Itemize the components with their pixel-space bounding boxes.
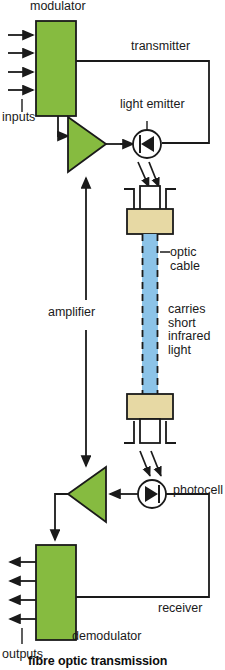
- modulator-block: [36, 21, 76, 116]
- light-emitter-label: light emitter: [120, 98, 185, 112]
- amplifier-label: amplifier: [48, 306, 95, 320]
- optic-cable: [142, 234, 158, 394]
- demodulator-label: demodulator: [72, 630, 142, 644]
- cable-note-label: carries short infrared light: [168, 303, 225, 357]
- photocell-label: photocell: [173, 484, 223, 498]
- modulator-label: modulator: [30, 0, 86, 14]
- demodulator-block: [36, 545, 76, 640]
- photocell-symbol: [138, 480, 166, 508]
- inputs-label: inputs: [2, 111, 35, 125]
- receiver-label: receiver: [158, 602, 202, 616]
- optic-cable-label: optic cable: [170, 246, 224, 273]
- transmitter-label: transmitter: [131, 40, 190, 54]
- figure-caption: fibre optic transmission: [28, 654, 167, 668]
